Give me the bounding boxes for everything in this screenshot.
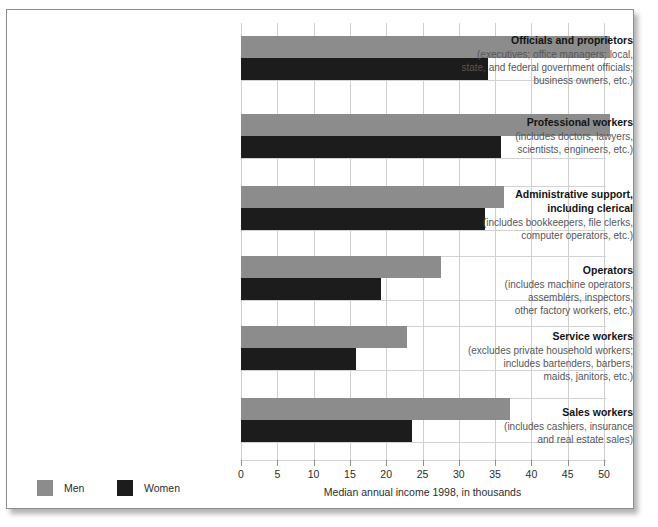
category-title-5: Sales workers (405, 406, 633, 420)
chart-card: Officials and proprietors(executives; of… (6, 9, 634, 509)
bar-women-5 (241, 420, 412, 442)
x-tick-mark-45 (568, 460, 569, 466)
category-sub-0-2: business owners, etc.) (405, 74, 633, 87)
category-sub-3-1: assemblers, inspectors, (405, 291, 633, 304)
x-tick-label-40: 40 (516, 468, 546, 480)
gridline-row-3 (241, 158, 606, 159)
bar-women-4 (241, 348, 356, 370)
category-title-4: Service workers (405, 330, 633, 344)
category-title-0: Officials and proprietors (405, 34, 633, 48)
x-axis-title: Median annual income 1998, in thousands (241, 486, 604, 498)
legend-item-men[interactable]: Men (37, 480, 84, 496)
category-sub-1-0: (includes doctors, lawyers, (405, 130, 633, 143)
legend-label-men: Men (64, 482, 84, 494)
x-tick-label-5: 5 (262, 468, 292, 480)
x-tick-mark-10 (314, 460, 315, 466)
category-label-3: Operators(includes machine operators,ass… (405, 264, 633, 317)
x-tick-mark-30 (459, 460, 460, 466)
x-tick-label-30: 30 (444, 468, 474, 480)
category-sub-2-0: (includes bookkeepers, file clerks, (405, 216, 633, 229)
x-tick-mark-50 (604, 460, 605, 466)
category-title-3: Operators (405, 264, 633, 278)
category-label-2: Administrative support,including clerica… (405, 188, 633, 242)
gridline-x-20 (386, 23, 387, 460)
x-tick-mark-25 (423, 460, 424, 466)
category-sub-1-1: scientists, engineers, etc.) (405, 143, 633, 156)
x-tick-label-35: 35 (480, 468, 510, 480)
x-tick-mark-0 (241, 460, 242, 466)
legend-swatch-men (37, 480, 53, 496)
x-tick-mark-35 (495, 460, 496, 466)
x-tick-label-45: 45 (553, 468, 583, 480)
legend-item-women[interactable]: Women (117, 480, 180, 496)
x-tick-mark-20 (386, 460, 387, 466)
x-tick-label-10: 10 (299, 468, 329, 480)
x-tick-label-20: 20 (371, 468, 401, 480)
category-label-1: Professional workers(includes doctors, l… (405, 116, 633, 156)
gridline-x-0 (241, 23, 242, 460)
category-sub-0-0: (executives; office managers; local, (405, 48, 633, 61)
x-tick-mark-5 (277, 460, 278, 466)
category-sub-4-0: (excludes private household workers; (405, 344, 633, 357)
x-tick-label-25: 25 (408, 468, 438, 480)
gridline-x-5 (277, 23, 278, 460)
gridline-x-15 (350, 23, 351, 460)
x-tick-label-0: 0 (226, 468, 256, 480)
category-sub-2-1: computer operators, etc.) (405, 229, 633, 242)
category-sub-3-0: (includes machine operators, (405, 278, 633, 291)
category-sub-0-1: state, and federal government officials; (405, 61, 633, 74)
category-sub-5-1: and real estate sales) (405, 433, 633, 446)
category-title-1: Professional workers (405, 116, 633, 130)
legend-label-women: Women (144, 482, 180, 494)
x-tick-mark-40 (531, 460, 532, 466)
category-sub-5-0: (includes cashiers, insurance (405, 420, 633, 433)
category-label-0: Officials and proprietors(executives; of… (405, 34, 633, 87)
x-tick-mark-15 (350, 460, 351, 466)
x-axis: 05101520253035404550 Median annual incom… (241, 460, 621, 500)
category-label-5: Sales workers(includes cashiers, insuran… (405, 406, 633, 446)
category-sub-3-2: other factory workers, etc.) (405, 304, 633, 317)
category-title-2: Administrative support, (405, 188, 633, 202)
x-tick-label-15: 15 (335, 468, 365, 480)
bar-women-3 (241, 278, 381, 300)
legend-swatch-women (117, 480, 133, 496)
category-label-4: Service workers(excludes private househo… (405, 330, 633, 383)
category-title2-2: including clerical (405, 202, 633, 216)
category-sub-4-1: includes bartenders, barbers, (405, 357, 633, 370)
category-sub-4-2: maids, janitors, etc.) (405, 370, 633, 383)
gridline-x-10 (314, 23, 315, 460)
bar-men-4 (241, 326, 407, 348)
x-tick-label-50: 50 (589, 468, 619, 480)
